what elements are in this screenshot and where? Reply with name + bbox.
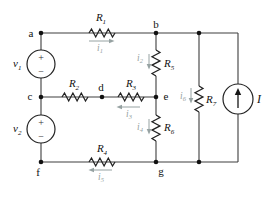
junction-bottom-r7-dot [197, 160, 202, 165]
v2-minus-sign: − [38, 131, 44, 142]
node-a-dot [39, 31, 44, 36]
node-d-dot [100, 95, 105, 100]
resistor-label-r6: R6 [163, 121, 175, 136]
node-f-dot [39, 160, 44, 165]
resistor-r1 [89, 29, 115, 37]
voltage-source-v1: + − [27, 50, 55, 78]
resistor-r7 [195, 86, 203, 112]
resistor-r3 [118, 93, 144, 101]
v2-plus-sign: + [38, 117, 44, 128]
current-label-i3: i3 [126, 109, 133, 120]
current-label-i4: i4 [137, 122, 144, 133]
junction-top-r7-dot [197, 31, 202, 36]
voltage-label-v1: v1 [13, 57, 21, 72]
resistor-label-r4: R4 [96, 142, 108, 157]
resistor-r2 [62, 93, 88, 101]
node-label-d: d [98, 81, 104, 93]
node-label-g: g [158, 165, 164, 177]
resistor-label-r3: R3 [125, 77, 137, 92]
current-label-i5: i5 [98, 172, 105, 183]
resistor-label-r1: R1 [95, 11, 106, 26]
node-label-c: c [28, 90, 33, 102]
node-g-dot [154, 160, 159, 165]
current-label-i1: i1 [97, 43, 103, 54]
current-label-i6: i6 [180, 91, 187, 102]
current-arrow-i5-head [89, 168, 95, 173]
node-label-b: b [153, 18, 159, 30]
resistor-r4 [89, 158, 115, 166]
v1-minus-sign: − [38, 66, 44, 77]
node-b-dot [154, 31, 159, 36]
current-source [223, 84, 253, 114]
voltage-source-v2: + − [27, 115, 55, 143]
node-label-f: f [36, 166, 40, 178]
current-arrow-i4-head [147, 129, 152, 135]
resistor-r6 [152, 115, 160, 141]
node-label-e: e [164, 90, 169, 102]
current-label-i2: i2 [137, 53, 144, 64]
voltage-label-v2: v2 [13, 122, 22, 137]
current-arrow-i3-head [117, 105, 123, 110]
node-label-a: a [29, 27, 34, 39]
resistor-label-r2: R2 [68, 77, 80, 92]
v1-plus-sign: + [38, 52, 44, 63]
node-e-dot [154, 95, 159, 100]
node-labels: a b c d e f g [28, 18, 169, 178]
current-source-label: I [256, 92, 262, 106]
node-c-dot [39, 95, 44, 100]
resistor-label-r5: R5 [163, 57, 175, 72]
current-arrow-i1-head [109, 39, 115, 44]
circuit-canvas: + − + − R1 [0, 0, 272, 199]
current-arrow-i6-head [189, 98, 194, 104]
resistor-r5 [152, 50, 160, 76]
resistor-label-r7: R7 [205, 93, 217, 108]
circuit-diagram: + − + − R1 [0, 0, 272, 199]
current-arrow-i2-head [147, 64, 152, 70]
